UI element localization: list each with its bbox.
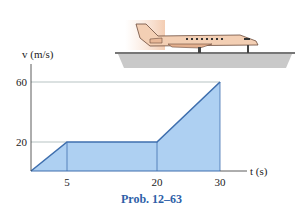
x-axis-label: t (s) bbox=[250, 165, 268, 178]
airplane-illustration bbox=[115, 20, 295, 68]
tick-5: 5 bbox=[64, 176, 70, 188]
y-axis-label: v (m/s) bbox=[22, 48, 54, 61]
runway-ground bbox=[118, 54, 292, 68]
area-under-curve bbox=[31, 82, 220, 171]
tick-20-x: 20 bbox=[152, 176, 164, 188]
engine-icon bbox=[150, 38, 162, 43]
landing-gear-main bbox=[198, 47, 201, 53]
runway-line bbox=[115, 52, 295, 54]
tick-20-y: 20 bbox=[16, 136, 28, 148]
velocity-time-figure: v (m/s) 60 20 5 20 30 t (s) bbox=[0, 0, 303, 214]
figure-caption: Prob. 12–63 bbox=[0, 192, 303, 207]
tick-30: 30 bbox=[215, 176, 227, 188]
tick-60: 60 bbox=[16, 76, 28, 88]
plot-area bbox=[31, 64, 247, 171]
wing-icon bbox=[168, 44, 212, 48]
landing-gear-nose bbox=[247, 45, 249, 53]
